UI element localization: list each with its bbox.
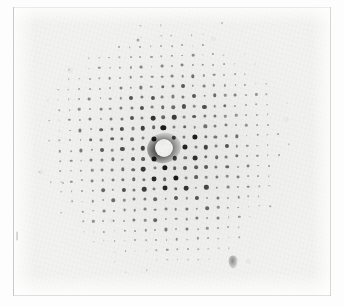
diffraction-spot bbox=[191, 74, 194, 77]
diffraction-spot bbox=[118, 66, 120, 68]
diffraction-spot bbox=[214, 135, 217, 138]
diffraction-spot bbox=[205, 206, 209, 210]
diffraction-spot bbox=[133, 198, 136, 201]
diffraction-spot bbox=[120, 117, 123, 120]
beam-stop-disk bbox=[155, 139, 173, 157]
diffraction-spot bbox=[172, 135, 176, 139]
diffraction-spot bbox=[196, 207, 198, 209]
diffraction-spot bbox=[119, 77, 121, 79]
diffraction-spot bbox=[245, 94, 247, 96]
diffraction-spot bbox=[192, 94, 196, 98]
diffraction-spot bbox=[182, 145, 187, 150]
diffraction-spot bbox=[175, 217, 178, 220]
diffraction-spot bbox=[172, 106, 175, 109]
diffraction-spot bbox=[239, 237, 241, 239]
diffraction-spot bbox=[160, 65, 163, 68]
diffraction-spot bbox=[256, 134, 259, 137]
diffraction-spot bbox=[215, 165, 218, 168]
diffraction-spot bbox=[203, 145, 207, 149]
diffraction-spot bbox=[161, 75, 164, 78]
diffraction-spot bbox=[123, 209, 126, 212]
diffraction-spot bbox=[228, 248, 229, 249]
diffraction-spot bbox=[69, 139, 71, 141]
diffraction-spot bbox=[162, 186, 167, 191]
diffraction-spot bbox=[267, 144, 269, 146]
diffraction-spot bbox=[181, 75, 184, 78]
diffraction-spot bbox=[90, 128, 92, 130]
diffraction-spot bbox=[184, 186, 189, 191]
diffraction-spot bbox=[101, 179, 104, 182]
diffraction-spot bbox=[109, 117, 112, 120]
diffraction-spot bbox=[100, 159, 103, 162]
diffraction-spot bbox=[88, 68, 89, 69]
diffraction-spot bbox=[185, 207, 188, 210]
diffraction-spot bbox=[69, 109, 71, 111]
diffraction-spot bbox=[164, 207, 167, 210]
diffraction-spot bbox=[100, 148, 104, 152]
diffraction-spot bbox=[83, 231, 84, 232]
diffraction-spot bbox=[194, 196, 198, 200]
diffraction-spot bbox=[69, 130, 71, 132]
diffraction-spot bbox=[101, 188, 105, 192]
diffraction-spot bbox=[98, 67, 100, 69]
diffraction-spot bbox=[192, 64, 194, 66]
diffraction-spot bbox=[151, 96, 155, 100]
diffraction-spot bbox=[80, 170, 82, 172]
diffraction-spot bbox=[194, 145, 197, 148]
diffraction-spot bbox=[112, 178, 115, 181]
diffraction-spot bbox=[197, 228, 199, 230]
diffraction-spot bbox=[160, 45, 162, 47]
diffraction-spot bbox=[60, 160, 62, 162]
diffraction-spot bbox=[161, 96, 164, 99]
diffraction-spot bbox=[223, 74, 225, 76]
diffraction-spot bbox=[203, 74, 205, 76]
diffraction-spot bbox=[89, 88, 91, 90]
diffraction-spot bbox=[213, 105, 216, 108]
diffraction-spot bbox=[150, 56, 152, 58]
diffraction-spot bbox=[175, 228, 177, 230]
diffraction-spot bbox=[238, 227, 239, 228]
diffraction-spot bbox=[132, 177, 135, 180]
diffraction-spot bbox=[208, 248, 209, 249]
diffraction-spot bbox=[195, 216, 198, 219]
diffraction-spot bbox=[171, 65, 173, 67]
diffraction-spot bbox=[68, 79, 70, 81]
diffraction-spot bbox=[171, 75, 174, 78]
diffraction-spot bbox=[207, 237, 209, 239]
diffraction-spot bbox=[183, 156, 186, 159]
diffraction-spot bbox=[125, 271, 126, 272]
diffraction-spot bbox=[110, 137, 114, 141]
diffraction-spot bbox=[161, 105, 165, 109]
diffraction-spot bbox=[140, 116, 143, 119]
diffraction-spot bbox=[248, 206, 250, 208]
diffraction-spot bbox=[160, 35, 161, 36]
diffraction-spot bbox=[48, 140, 50, 142]
diffraction-spot bbox=[173, 156, 177, 160]
emulsion-smudge-mark bbox=[229, 256, 238, 269]
diffraction-spot bbox=[213, 94, 217, 98]
diffraction-spot bbox=[153, 167, 156, 170]
diffraction-spot bbox=[223, 54, 224, 55]
diffraction-spot bbox=[139, 86, 142, 89]
diffraction-spot bbox=[235, 124, 237, 126]
diffraction-spot bbox=[183, 115, 186, 118]
diffraction-spot bbox=[124, 240, 125, 241]
diffraction-spot bbox=[91, 180, 94, 183]
diffraction-spot bbox=[266, 83, 267, 84]
diffraction-spot bbox=[193, 105, 196, 108]
diffraction-spot bbox=[130, 87, 132, 89]
diffraction-spot bbox=[204, 125, 207, 128]
diffraction-spot bbox=[192, 134, 197, 139]
diffraction-spot bbox=[259, 206, 260, 207]
diffraction-spot bbox=[90, 149, 92, 151]
diffraction-spot bbox=[139, 66, 142, 69]
diffraction-spot bbox=[89, 138, 93, 142]
diffraction-spot bbox=[58, 89, 60, 91]
diffraction-spot bbox=[226, 186, 229, 189]
diffraction-spot bbox=[59, 130, 61, 132]
diffraction-spot bbox=[78, 88, 80, 90]
diffraction-spot bbox=[120, 137, 123, 140]
diffraction-spot bbox=[140, 36, 141, 37]
diffraction-spot bbox=[90, 159, 93, 162]
diffraction-spot bbox=[151, 136, 156, 141]
